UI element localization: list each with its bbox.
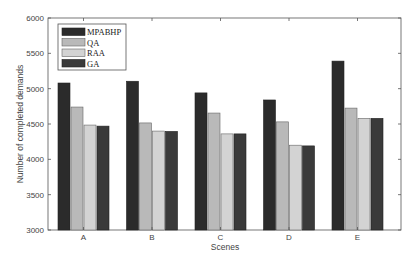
y-tick-label: 4500: [26, 120, 44, 129]
legend-label: RAA: [87, 48, 106, 58]
bar-qa-b: [140, 123, 152, 230]
legend-label: QA: [87, 38, 100, 48]
bar-raa-d: [290, 145, 302, 230]
bar-qa-d: [277, 122, 289, 230]
bar-qa-a: [71, 107, 83, 230]
bar-ga-d: [303, 146, 315, 230]
bar-mpabhp-d: [264, 100, 276, 230]
bar-mpabhp-e: [332, 61, 344, 230]
bar-mpabhp-c: [195, 93, 207, 230]
y-tick-label: 3000: [26, 226, 44, 235]
x-tick-label: E: [355, 233, 360, 242]
bar-ga-b: [166, 131, 178, 230]
legend: MPABHPQARAAGA: [58, 24, 126, 70]
x-tick-label: D: [286, 233, 292, 242]
y-tick-label: 4000: [26, 155, 44, 164]
bar-ga-e: [371, 118, 383, 230]
y-tick-label: 5000: [26, 85, 44, 94]
x-tick-label: A: [81, 233, 87, 242]
bar-qa-c: [208, 113, 220, 230]
bar-mpabhp-a: [58, 83, 70, 230]
x-axis-title: Scenes: [211, 242, 239, 252]
bar-ga-c: [234, 134, 246, 230]
bar-ga-a: [97, 126, 109, 230]
bar-mpabhp-b: [127, 81, 139, 230]
y-tick-label: 5500: [26, 49, 44, 58]
bar-raa-b: [153, 131, 165, 230]
y-tick-label: 3500: [26, 191, 44, 200]
x-tick-label: C: [218, 233, 224, 242]
bar-chart: 3000350040004500500055006000 ABCDE Scene…: [0, 0, 416, 262]
bar-qa-e: [345, 108, 357, 230]
y-axis-title: Number of completed demands: [15, 65, 25, 184]
legend-label: GA: [87, 59, 100, 69]
x-tick-label: B: [149, 233, 154, 242]
bar-raa-c: [221, 134, 233, 230]
legend-swatch: [62, 39, 85, 47]
y-tick-label: 6000: [26, 14, 44, 23]
bar-raa-a: [84, 125, 96, 230]
legend-swatch: [62, 49, 85, 57]
bar-raa-e: [358, 118, 370, 230]
legend-label: MPABHP: [87, 27, 121, 37]
legend-swatch: [62, 28, 85, 36]
legend-swatch: [62, 60, 85, 68]
